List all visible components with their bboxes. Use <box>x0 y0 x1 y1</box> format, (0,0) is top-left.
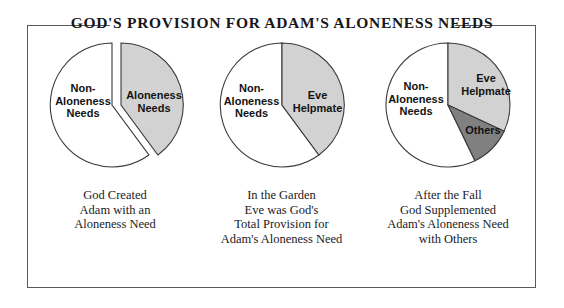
pie-3-graphic: Non- Aloneness Needs Eve Helpmate Others <box>373 32 523 178</box>
pie-chart-3: Non- Aloneness Needs Eve Helpmate Others… <box>366 26 530 246</box>
pie-2-graphic: Non- Aloneness Needs Eve Helpmate <box>207 32 357 178</box>
pie-1-caption: God Created Adam with an Aloneness Need <box>74 188 156 232</box>
figure-container: GOD'S PROVISION FOR ADAM'S ALONENESS NEE… <box>0 0 564 308</box>
pie-1-svg <box>40 32 190 178</box>
pie-1-graphic: Non- Aloneness Needs Aloneness Needs <box>40 32 190 178</box>
pie-charts-row: Non- Aloneness Needs Aloneness Needs God… <box>27 26 536 288</box>
pie-chart-1: Non- Aloneness Needs Aloneness Needs God… <box>33 26 197 232</box>
pie-chart-2: Non- Aloneness Needs Eve Helpmate In the… <box>200 26 364 246</box>
pie-2-caption: In the Garden Eve was God's Total Provis… <box>221 188 343 246</box>
pie-3-caption: After the Fall God Supplemented Adam's A… <box>387 188 509 246</box>
pie-3-svg <box>373 32 523 178</box>
pie-2-svg <box>207 32 357 178</box>
